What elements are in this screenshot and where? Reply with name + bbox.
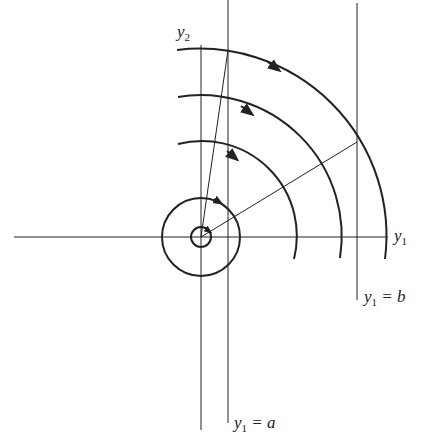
label-rest: = a — [247, 413, 275, 432]
y2-axis-label: y2 — [177, 22, 190, 43]
middle-arc-arrow-icon — [241, 106, 249, 112]
diagram: y2 y1 y1 = b y1 = a — [0, 0, 433, 448]
label-var: y — [234, 413, 242, 432]
label-rest: = b — [377, 287, 405, 306]
label-var: y — [177, 22, 185, 41]
label-sub: 2 — [185, 31, 191, 43]
diagram-canvas — [0, 0, 433, 448]
line-b-label: y1 = b — [364, 287, 406, 308]
outer-arc — [177, 49, 386, 259]
inner-arc — [178, 141, 297, 259]
label-var: y — [394, 226, 402, 245]
line-a-label: y1 = a — [234, 413, 276, 434]
y1-axis-label: y1 — [394, 226, 407, 247]
label-sub: 1 — [402, 235, 408, 247]
middle-arc — [178, 95, 342, 258]
label-var: y — [364, 287, 372, 306]
